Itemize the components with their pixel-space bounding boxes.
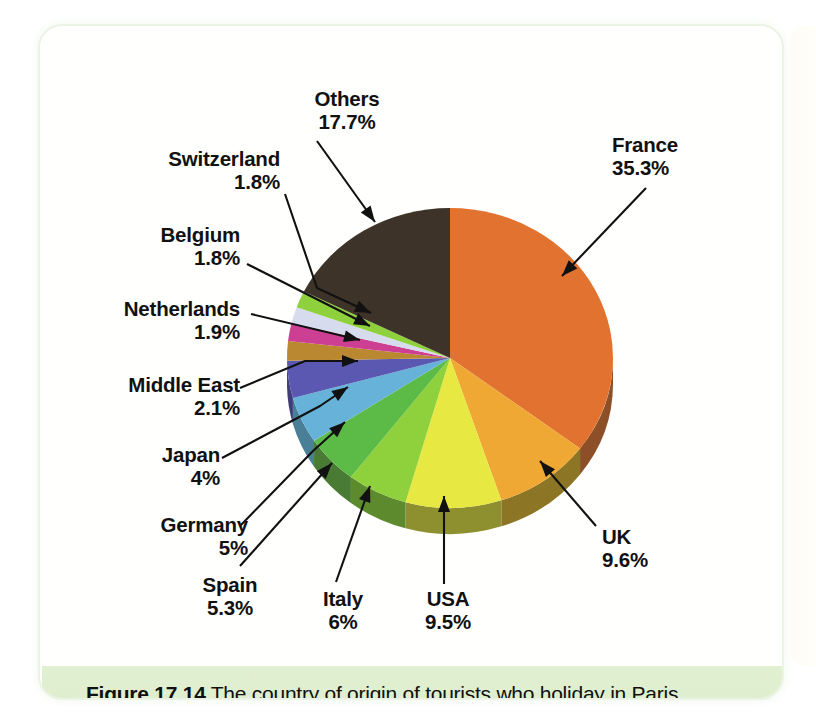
figure-caption: Figure 17.14 The country of origin of to…	[42, 682, 678, 698]
pie-slice-group	[287, 208, 613, 508]
label-belgium: Belgium 1.8%	[100, 224, 240, 270]
label-uk-pct: 9.6%	[602, 549, 722, 572]
label-germany-pct: 5%	[80, 537, 248, 560]
label-netherlands-pct: 1.9%	[60, 321, 240, 344]
figure-caption-text: The country of origin of tourists who ho…	[206, 682, 679, 698]
label-japan: Japan 4%	[80, 444, 220, 490]
label-usa-name: USA	[427, 587, 470, 610]
pie-chart-area: Others 17.7% Switzerland 1.8% Belgium 1.…	[40, 26, 782, 666]
label-italy-pct: 6%	[288, 611, 398, 634]
figure-caption-band: Figure 17.14 The country of origin of to…	[42, 666, 782, 698]
label-switzerland: Switzerland 1.8%	[100, 148, 280, 194]
label-france-name: France	[612, 133, 678, 156]
label-france: France 35.3%	[612, 134, 752, 180]
label-italy-name: Italy	[323, 587, 363, 610]
label-france-pct: 35.3%	[612, 157, 752, 180]
label-spain: Spain 5.3%	[170, 574, 290, 620]
label-usa-pct: 9.5%	[388, 611, 508, 634]
label-japan-pct: 4%	[80, 467, 220, 490]
label-netherlands: Netherlands 1.9%	[60, 298, 240, 344]
label-switzerland-name: Switzerland	[168, 147, 280, 170]
label-belgium-pct: 1.8%	[100, 247, 240, 270]
label-japan-name: Japan	[162, 443, 220, 466]
label-middle-east: Middle East 2.1%	[60, 374, 240, 420]
label-italy: Italy 6%	[288, 588, 398, 634]
label-germany: Germany 5%	[80, 514, 248, 560]
label-middle-east-name: Middle East	[128, 373, 240, 396]
label-netherlands-name: Netherlands	[124, 297, 240, 320]
label-switzerland-pct: 1.8%	[100, 171, 280, 194]
label-germany-name: Germany	[161, 513, 248, 536]
figure-panel: Others 17.7% Switzerland 1.8% Belgium 1.…	[40, 26, 782, 698]
arrow-head	[361, 205, 375, 222]
label-others: Others 17.7%	[272, 88, 422, 134]
label-spain-pct: 5.3%	[170, 597, 290, 620]
label-middle-east-pct: 2.1%	[60, 397, 240, 420]
label-spain-name: Spain	[203, 573, 258, 596]
label-others-pct: 17.7%	[272, 111, 422, 134]
label-usa: USA 9.5%	[388, 588, 508, 634]
leader-line	[562, 188, 646, 276]
page-gutter	[790, 26, 816, 666]
label-uk-name: UK	[602, 525, 631, 548]
figure-caption-number: Figure 17.14	[86, 682, 206, 698]
label-belgium-name: Belgium	[161, 223, 240, 246]
label-uk: UK 9.6%	[602, 526, 722, 572]
label-others-name: Others	[315, 87, 380, 110]
